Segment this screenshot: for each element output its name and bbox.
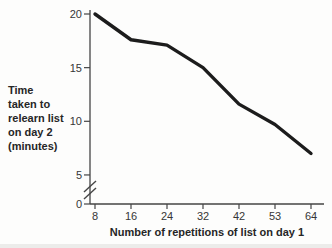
x-tick-label: 64 <box>297 210 325 223</box>
x-tick-label: 32 <box>189 210 217 223</box>
y-tick-label: 10 <box>56 114 82 128</box>
y-tick-label: 0 <box>56 197 82 211</box>
x-axis-title: Number of repetitions of list on day 1 <box>82 226 332 238</box>
y-tick-label: 5 <box>56 168 82 182</box>
y-tick-label: 15 <box>56 61 82 75</box>
scan-edge-shading <box>0 244 332 248</box>
x-tick-label: 24 <box>153 210 181 223</box>
x-tick-label: 8 <box>81 210 109 223</box>
data-line <box>95 14 311 153</box>
x-tick-label: 42 <box>225 210 253 223</box>
y-tick-label: 20 <box>56 7 82 21</box>
relearning-time-line-chart: Time taken to relearn list on day 2 (min… <box>0 0 332 248</box>
x-tick-label: 16 <box>117 210 145 223</box>
x-tick-label: 53 <box>261 210 289 223</box>
